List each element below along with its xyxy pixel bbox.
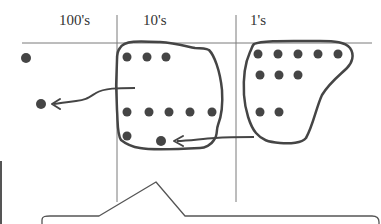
tens-dot [165, 108, 174, 117]
tens-dot [162, 53, 171, 62]
tens-dot [186, 108, 195, 117]
ones-dot [256, 108, 265, 117]
ones-dot [274, 50, 283, 59]
place-value-diagram: 100's 10's 1's [0, 0, 381, 224]
tens-dot [156, 136, 166, 146]
ones-dot [294, 71, 303, 80]
regroup-arrow-tens-to-hundreds [54, 88, 135, 104]
left-edge-bracket [0, 162, 1, 224]
tens-dot [145, 108, 154, 117]
tens-dot [123, 53, 132, 62]
ones-dot [256, 71, 265, 80]
tens-dot [143, 53, 152, 62]
tens-dot [123, 132, 132, 141]
ones-dot [314, 50, 323, 59]
ones-dot [275, 71, 284, 80]
diagram-canvas [0, 0, 381, 224]
callout-bubble [42, 182, 379, 224]
hundreds-dot [21, 53, 31, 63]
grid-lines [22, 15, 372, 202]
hundreds-dot [36, 99, 46, 109]
ones-dot [294, 50, 303, 59]
tens-dot [123, 108, 132, 117]
tens-dot [208, 108, 217, 117]
ones-dot [275, 108, 284, 117]
counter-dots [21, 50, 343, 147]
ones-dot [254, 50, 263, 59]
ones-dot [334, 50, 343, 59]
